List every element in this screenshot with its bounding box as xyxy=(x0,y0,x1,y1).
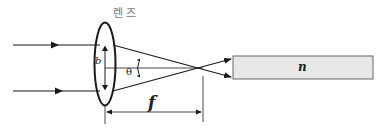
incoming-ray-bottom xyxy=(13,88,100,95)
aperture-label: b xyxy=(95,55,101,66)
ray-arrow-icon xyxy=(55,88,63,95)
ray-arrow-icon xyxy=(51,42,59,49)
lens-label: 렌 즈 xyxy=(113,7,137,20)
medium-label: n xyxy=(298,60,307,74)
angle-label: θ xyxy=(126,66,132,77)
incoming-ray-top xyxy=(13,42,100,49)
focal-length-label: f xyxy=(147,92,158,112)
lens-focusing-diagram: 렌 즈 b θ f n xyxy=(0,0,388,135)
